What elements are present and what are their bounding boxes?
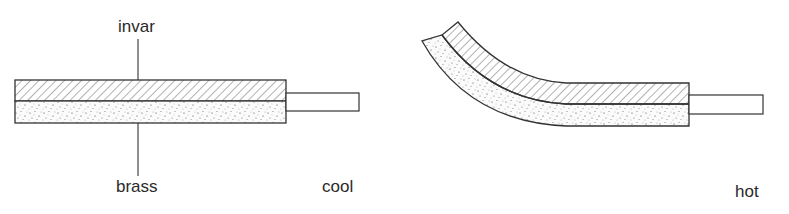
invar-layer-cool [15,80,286,101]
clamp-peg-cool [286,93,359,111]
clamp-peg-hot [689,95,763,114]
hot-strip [422,22,763,126]
brass-label: brass [116,178,158,195]
cool-strip [15,39,359,176]
cool-state-label: cool [322,178,353,195]
invar-label: invar [118,18,155,35]
brass-layer-cool [15,101,286,123]
hot-state-label: hot [735,183,759,200]
